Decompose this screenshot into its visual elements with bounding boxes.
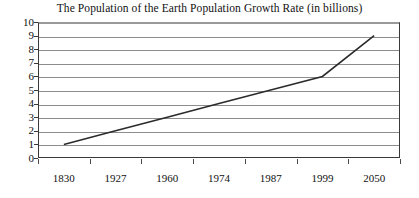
x-axis-tick [90,159,91,164]
x-axis-tick-label: 1987 [245,172,297,184]
series-line-world-population [64,36,374,145]
x-axis-tick [141,159,142,164]
x-axis-tick [297,159,298,164]
series-line-layer [38,22,400,158]
x-axis-tick-label: 1999 [297,172,349,184]
x-axis-tick [348,159,349,164]
x-axis-tick [38,159,39,164]
x-axis-tick [245,159,246,164]
x-axis-tick-label: 2050 [348,172,400,184]
x-axis-tick [400,159,401,164]
x-axis-tick-label: 1960 [141,172,193,184]
x-axis-tick-label: 1830 [38,172,90,184]
x-axis-tick-label: 1927 [90,172,142,184]
x-axis-tick [193,159,194,164]
x-axis-tick-label: 1974 [193,172,245,184]
population-growth-line-chart: The Population of the Earth Population G… [0,0,419,198]
